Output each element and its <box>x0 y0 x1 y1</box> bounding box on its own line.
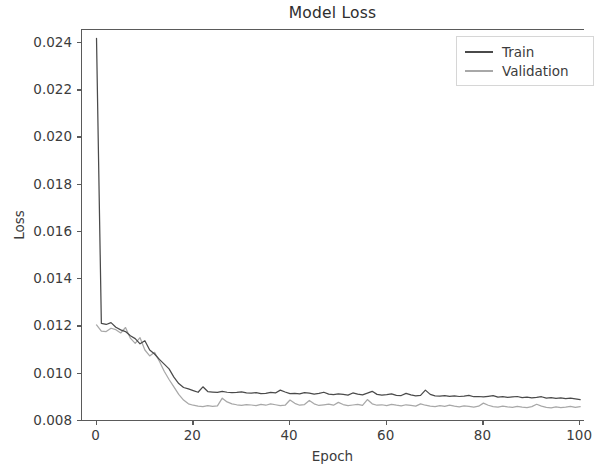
x-tick-label: 60 <box>377 427 394 443</box>
y-axis-label: Loss <box>11 210 27 240</box>
x-tick-mark <box>289 421 290 425</box>
y-tick-mark <box>77 373 81 374</box>
page-title: Model Loss <box>81 4 584 22</box>
y-tick-mark <box>77 89 81 90</box>
legend-item-train: Train <box>465 42 585 61</box>
validation-line-swatch <box>465 70 493 72</box>
y-tick-label: 0.020 <box>33 128 72 144</box>
y-tick-mark <box>77 42 81 43</box>
train-line-swatch <box>465 51 493 53</box>
y-tick-mark <box>77 136 81 137</box>
legend-label-validation: Validation <box>502 63 569 79</box>
y-tick-label: 0.016 <box>33 223 72 239</box>
x-tick-mark <box>192 421 193 425</box>
x-tick-mark <box>482 421 483 425</box>
legend-item-validation: Validation <box>465 61 585 80</box>
x-tick-label: 0 <box>91 427 100 443</box>
y-tick-label: 0.022 <box>33 81 72 97</box>
plot-area <box>81 29 584 421</box>
y-tick-label: 0.018 <box>33 176 72 192</box>
y-tick-mark <box>77 325 81 326</box>
y-tick-label: 0.014 <box>33 270 72 286</box>
x-tick-mark <box>579 421 580 425</box>
x-tick-label: 80 <box>474 427 491 443</box>
legend-label-train: Train <box>502 44 534 60</box>
y-tick-mark <box>77 231 81 232</box>
train-loss-line <box>97 38 581 399</box>
y-tick-label: 0.024 <box>33 34 72 50</box>
y-tick-label: 0.010 <box>33 365 72 381</box>
y-tick-label: 0.012 <box>33 317 72 333</box>
x-tick-label: 40 <box>280 427 297 443</box>
x-axis-label: Epoch <box>81 448 584 464</box>
y-tick-label: 0.008 <box>33 412 72 428</box>
legend: Train Validation <box>456 36 594 86</box>
x-tick-label: 20 <box>184 427 201 443</box>
x-tick-label: 100 <box>566 427 592 443</box>
y-tick-mark <box>77 184 81 185</box>
x-tick-mark <box>386 421 387 425</box>
x-tick-mark <box>96 421 97 425</box>
series-canvas <box>82 30 585 422</box>
y-tick-mark <box>77 278 81 279</box>
validation-loss-line <box>97 325 581 408</box>
y-tick-mark <box>77 420 81 421</box>
